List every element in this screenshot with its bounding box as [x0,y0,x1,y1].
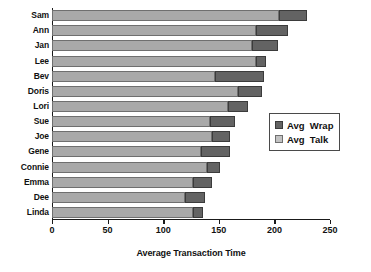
bar-row[interactable] [52,40,278,51]
y-axis-label-sam: Sam [1,10,49,21]
y-axis-category-labels: SamAnnJanLeeBevDorisLoriSueJoeGeneConnie… [0,8,49,220]
bar-segment-avg-wrap[interactable] [228,101,248,112]
bar-segment-avg-talk[interactable] [52,207,193,218]
bar-segment-avg-talk[interactable] [52,25,256,36]
bar-segment-avg-talk[interactable] [52,146,201,157]
bar-segment-avg-talk[interactable] [52,86,238,97]
x-axis-tick-label: 50 [103,225,113,235]
x-axis-tick-label: 250 [322,225,337,235]
y-axis-label-connie: Connie [1,162,49,173]
x-axis-tick-label: 150 [211,225,226,235]
bar-segment-avg-talk[interactable] [52,162,207,173]
bar-segment-avg-talk[interactable] [52,101,228,112]
legend-label-avg-talk: Avg Talk [287,134,328,145]
y-axis-label-bev: Bev [1,71,49,82]
stacked-bar-chart: SamAnnJanLeeBevDorisLoriSueJoeGeneConnie… [0,0,371,272]
bar-segment-avg-talk[interactable] [52,56,256,67]
bar-segment-avg-talk[interactable] [52,116,210,127]
y-axis-label-linda: Linda [1,207,49,218]
y-axis-label-doris: Doris [1,86,49,97]
bar-segment-avg-wrap[interactable] [256,56,266,67]
bar-segment-avg-talk[interactable] [52,40,252,51]
y-axis-label-joe: Joe [1,131,49,142]
bar-segment-avg-wrap[interactable] [193,177,212,188]
bar-row[interactable] [52,25,288,36]
x-axis-tick-label: 0 [49,225,54,235]
legend-label-avg-wrap: Avg Wrap [287,120,333,131]
bar-segment-avg-talk[interactable] [52,131,212,142]
bar-row[interactable] [52,86,262,97]
bar-segment-avg-talk[interactable] [52,192,185,203]
y-axis-label-lori: Lori [1,101,49,112]
dark-swatch-icon [275,121,283,129]
x-axis-tick [52,220,53,224]
bar-segment-avg-wrap[interactable] [238,86,262,97]
y-axis-label-emma: Emma [1,177,49,188]
bar-segment-avg-talk[interactable] [52,10,279,21]
bar-row[interactable] [52,116,235,127]
bar-segment-avg-wrap[interactable] [256,25,288,36]
bar-segment-avg-wrap[interactable] [207,162,220,173]
y-axis-label-jan: Jan [1,40,49,51]
bar-segment-avg-talk[interactable] [52,177,193,188]
bar-row[interactable] [52,131,230,142]
bar-segment-avg-wrap[interactable] [252,40,278,51]
bar-segment-avg-wrap[interactable] [201,146,230,157]
y-axis-label-sue: Sue [1,116,49,127]
bar-row[interactable] [52,207,203,218]
x-axis-tick-label: 100 [156,225,171,235]
bar-row[interactable] [52,177,212,188]
x-axis-tick [163,220,164,224]
bar-row[interactable] [52,146,230,157]
light-swatch-icon [275,135,283,143]
y-axis-label-dee: Dee [1,192,49,203]
bar-segment-avg-talk[interactable] [52,71,215,82]
legend-item-avg-wrap[interactable]: Avg Wrap [275,118,333,132]
y-axis-label-gene: Gene [1,146,49,157]
legend-item-avg-talk[interactable]: Avg Talk [275,132,333,146]
bar-segment-avg-wrap[interactable] [193,207,203,218]
x-axis-tick [219,220,220,224]
bar-row[interactable] [52,71,264,82]
bar-segment-avg-wrap[interactable] [210,116,236,127]
bar-row[interactable] [52,192,205,203]
x-axis-tick [274,220,275,224]
bar-segment-avg-wrap[interactable] [215,71,264,82]
bar-row[interactable] [52,10,307,21]
bar-segment-avg-wrap[interactable] [279,10,307,21]
bar-row[interactable] [52,56,266,67]
x-axis-title: Average Transaction Time [52,248,330,258]
x-axis-tick [108,220,109,224]
y-axis-label-ann: Ann [1,25,49,36]
x-axis-tick [330,220,331,224]
bar-segment-avg-wrap[interactable] [212,131,230,142]
chart-legend: Avg Wrap Avg Talk [269,113,340,151]
y-axis-label-lee: Lee [1,56,49,67]
bar-row[interactable] [52,101,248,112]
x-axis-tick-label: 200 [267,225,282,235]
bar-segment-avg-wrap[interactable] [185,192,205,203]
bar-row[interactable] [52,162,220,173]
x-axis: 050100150200250 [52,220,330,250]
